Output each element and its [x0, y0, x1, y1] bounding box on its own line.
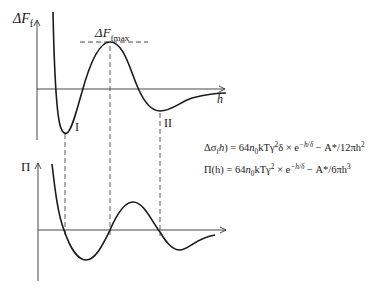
guide-lines: [65, 46, 160, 236]
eq1-rest-sup: 2: [361, 140, 365, 149]
f-subscript: f: [30, 18, 33, 29]
eq2-lhs: Π(h) = 64: [204, 164, 246, 175]
top-y-axis-label: ΔFf: [13, 12, 33, 26]
bottom-panel: [38, 163, 226, 281]
minimum-I-label: I: [75, 121, 79, 133]
eq2-rest-sup: 3: [347, 162, 351, 171]
equation-interfacial-tension: Δσfh(h) = 64) = 64n0kTγ2δ × e−h/δ − A*/1…: [204, 143, 365, 154]
free-energy-curve: [53, 12, 226, 133]
delta-F-text: ΔF: [13, 11, 30, 26]
eq1-exp: −h/δ: [299, 140, 313, 149]
equation-disjoining-pressure: Π(h) = 64n0kTγ2 × e−h/δ − A*/6πh3: [204, 165, 351, 176]
top-panel: [37, 12, 226, 140]
eq2-tail: × e: [274, 164, 290, 175]
eq1-mid: kTγ: [258, 142, 274, 153]
eq2-rest: − A*/6πh: [304, 164, 347, 175]
eq2-mid: kTγ: [254, 164, 270, 175]
eq1-rest: − A*/12πh: [313, 142, 361, 153]
disjoining-pressure-curve: [52, 164, 215, 260]
delta-F-max-text: ΔF: [95, 25, 111, 40]
eq1-tail: δ × e: [278, 142, 299, 153]
eq1-lhs: Δσ: [204, 142, 216, 153]
eq2-exp: −h/δ: [290, 162, 304, 171]
minimum-II-label: II: [164, 117, 172, 129]
fmax-subscript: fmax: [111, 33, 130, 43]
top-x-axis-label: h: [217, 93, 223, 105]
bottom-y-axis-label: Π: [21, 160, 30, 173]
max-label: ΔFfmax: [95, 26, 129, 39]
